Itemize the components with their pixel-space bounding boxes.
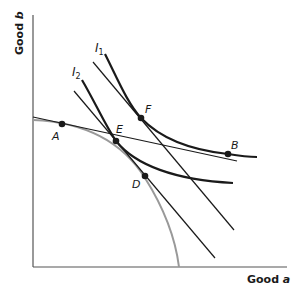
point-F — [138, 115, 145, 122]
point-B-label: B — [231, 139, 239, 152]
point-A — [59, 121, 66, 128]
point-A-label: A — [51, 130, 60, 143]
x-axis-label: Good a — [247, 273, 290, 286]
point-E — [113, 138, 120, 145]
diagram-svg: Good b Good a I1 I2 A E F — [0, 0, 305, 298]
i2-label: I2 — [72, 65, 81, 81]
diagram-canvas: Good b Good a I1 I2 A E F — [0, 0, 305, 298]
y-axis-label: Good b — [13, 11, 26, 55]
i1-label: I1 — [95, 41, 104, 57]
point-E-label: E — [116, 123, 123, 136]
point-F-label: F — [145, 103, 152, 116]
point-D-label: D — [132, 178, 140, 191]
point-D — [142, 173, 149, 180]
